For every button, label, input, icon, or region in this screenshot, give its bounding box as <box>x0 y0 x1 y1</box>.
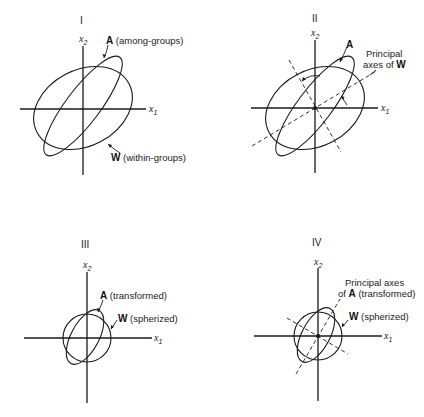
panel-2-origin-dot <box>313 106 317 110</box>
panel-4-x1-label: x1 <box>383 330 392 343</box>
panel-2-axes-pointer <box>370 70 376 75</box>
panel-1-roman: I <box>80 15 83 26</box>
panel-3-roman: III <box>81 239 89 250</box>
panel-2-x1-label: x1 <box>380 102 389 115</box>
panel-2-roman: II <box>312 13 318 24</box>
panel-3-w-label: W (spherized) <box>118 313 178 324</box>
panel-3: III x1 x2 A (transformed) W (spherized) <box>24 239 178 403</box>
panel-2-minor-arrowhead <box>302 77 306 81</box>
panel-1-x1-label: x1 <box>148 103 157 116</box>
panel-1-a-label: A (among-groups) <box>106 35 183 46</box>
panel-4: IV x1 x2 Principal axes of A (transforme… <box>254 237 415 401</box>
panel-4-origin-dot <box>316 334 320 338</box>
panel-2-a-label: A <box>346 39 353 50</box>
panel-2: II x1 x2 A Principal axes of W <box>251 13 406 173</box>
panel-1-x2-label: x2 <box>78 33 87 46</box>
panel-2-principal-label-line2: axes of W <box>363 59 406 70</box>
panel-4-principal-label-line2: of A (transformed) <box>338 288 415 299</box>
panel-1: I x1 x2 A (among-groups) W (within-group… <box>19 15 186 175</box>
figure-canvas: I x1 x2 A (among-groups) W (within-group… <box>0 0 424 417</box>
panel-3-a-label: A (transformed) <box>100 290 167 301</box>
panel-2-x2-label: x2 <box>310 27 319 40</box>
panel-4-w-label: W (spherized) <box>349 311 409 322</box>
panel-4-principal-label-line1: Principal axes <box>345 277 404 288</box>
panel-4-x2-label: x2 <box>313 256 322 269</box>
panel-2-principal-label-line1: Principal <box>366 48 402 59</box>
panel-3-x2-label: x2 <box>82 259 91 272</box>
panel-4-roman: IV <box>312 237 322 248</box>
panel-1-w-label: W (within-groups) <box>111 152 186 163</box>
panel-3-x1-label: x1 <box>153 332 162 345</box>
